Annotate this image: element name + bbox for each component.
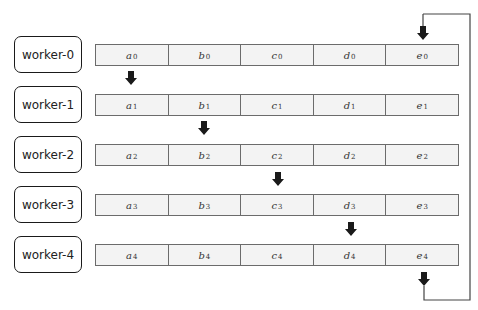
down-arrow-icon-e-bottom — [418, 272, 430, 286]
down-arrow-icon-e-top — [417, 26, 429, 40]
wraparound-loop-connector — [0, 0, 478, 310]
